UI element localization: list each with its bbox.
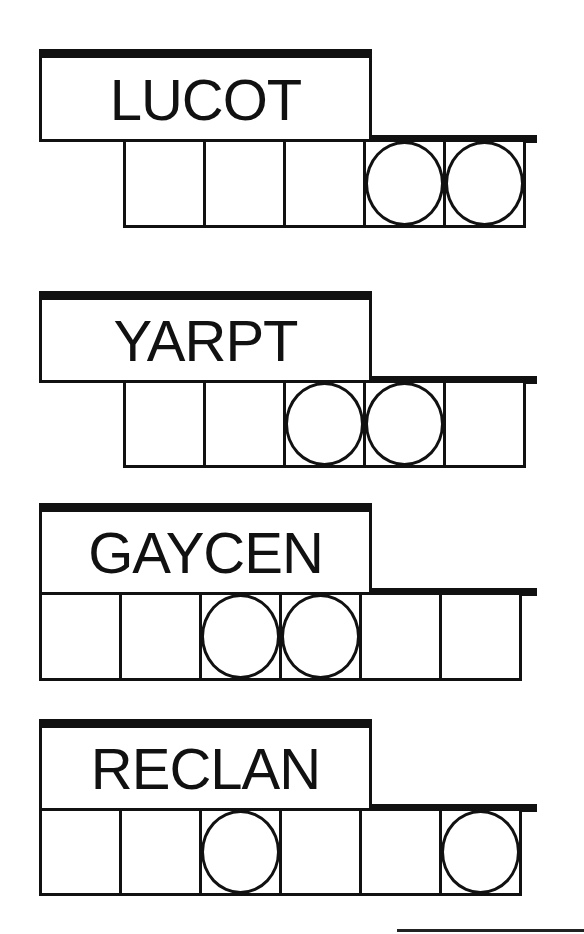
circle-icon <box>281 594 360 679</box>
circle-icon <box>441 810 520 894</box>
circle-icon <box>365 382 444 466</box>
clue-box: YARPT <box>39 291 372 383</box>
answer-cell-circled[interactable] <box>283 380 366 468</box>
answer-cell[interactable] <box>123 380 206 468</box>
scrambled-word: GAYCEN <box>88 524 323 582</box>
answer-cell-circled[interactable] <box>439 808 522 896</box>
scrambled-word: RECLAN <box>91 740 320 798</box>
answer-cell[interactable] <box>359 592 442 681</box>
circle-icon <box>285 382 364 466</box>
clue-box: GAYCEN <box>39 503 372 595</box>
answer-cells <box>123 380 526 468</box>
answer-cell[interactable] <box>119 808 202 896</box>
circle-icon <box>201 594 280 679</box>
answer-cell[interactable] <box>39 808 122 896</box>
answer-cells <box>39 592 522 681</box>
answer-cell[interactable] <box>203 380 286 468</box>
divider-line <box>397 929 584 932</box>
clue-box: RECLAN <box>39 719 372 811</box>
scrambled-word: YARPT <box>113 312 297 370</box>
answer-cell-circled[interactable] <box>199 592 282 681</box>
puzzle-4: RECLAN <box>0 0 584 190</box>
answer-cell-circled[interactable] <box>279 592 362 681</box>
answer-cell[interactable] <box>359 808 442 896</box>
answer-cells <box>39 808 522 896</box>
answer-cell[interactable] <box>39 592 122 681</box>
answer-cell-circled[interactable] <box>363 380 446 468</box>
answer-cell[interactable] <box>443 380 526 468</box>
circle-icon <box>201 810 280 894</box>
answer-cell[interactable] <box>119 592 202 681</box>
answer-cell-circled[interactable] <box>199 808 282 896</box>
answer-cell[interactable] <box>279 808 362 896</box>
answer-cell[interactable] <box>439 592 522 681</box>
